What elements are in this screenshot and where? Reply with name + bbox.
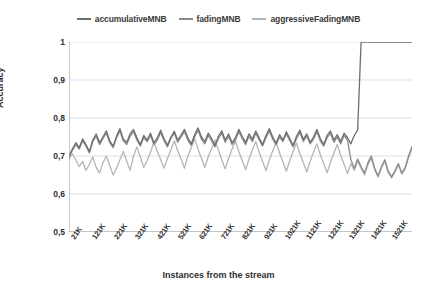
- x-tick-label: 121K: [90, 222, 107, 241]
- x-tick-label: 1321K: [347, 219, 366, 241]
- x-tick-label: 721K: [219, 222, 236, 241]
- x-axis-title: Instances from the stream: [0, 270, 437, 280]
- x-tick-label: 1421K: [369, 219, 388, 241]
- x-tick-label: 321K: [133, 222, 150, 241]
- x-tick-label: 21K: [69, 225, 84, 241]
- x-tick-label: 1221K: [326, 219, 345, 241]
- x-tick-label: 1121K: [304, 219, 323, 241]
- x-tick-label: 521K: [176, 222, 193, 241]
- x-tick-label: 221K: [112, 222, 129, 241]
- x-tick-label: 821K: [240, 222, 257, 241]
- x-tick-label: 921K: [262, 222, 279, 241]
- x-tick-label: 1521K: [390, 219, 409, 241]
- chart-figure: accumulativeMNB fadingMNB aggressiveFadi…: [0, 0, 437, 299]
- x-axis-ticks: 21K121K221K321K421K521K621K721K821K921K1…: [0, 0, 437, 299]
- x-tick-label: 1021K: [283, 219, 302, 241]
- x-tick-label: 421K: [155, 222, 172, 241]
- x-tick-label: 621K: [197, 222, 214, 241]
